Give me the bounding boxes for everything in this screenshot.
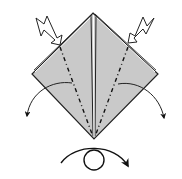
push-arrow-right-icon	[128, 17, 154, 43]
push-arrow-left-icon	[36, 16, 62, 45]
origami-diagram	[0, 0, 182, 179]
turn-over-icon	[61, 148, 128, 170]
